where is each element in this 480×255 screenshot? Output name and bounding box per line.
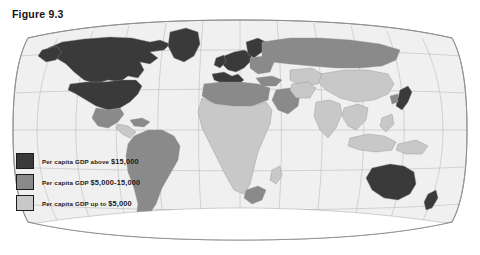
legend-swatch-high [16,153,34,169]
map-legend: Per capita GDP above $15,000 Per capita … [16,153,140,211]
legend-amount-middle: $5,000-15,000 [91,178,141,187]
legend-text-middle: Per capita GDP [42,179,91,186]
legend-swatch-low [16,195,34,211]
legend-swatch-middle [16,174,34,190]
legend-amount-high: $15,000 [111,157,139,166]
legend-item-low: Per capita GDP up to $5,000 [16,195,140,211]
legend-text-low: Per capita GDP up to [42,200,108,207]
legend-item-high: Per capita GDP above $15,000 [16,153,140,169]
legend-item-middle: Per capita GDP $5,000-15,000 [16,174,140,190]
legend-text-high: Per capita GDP above [42,158,111,165]
legend-label-low: Per capita GDP up to $5,000 [42,199,132,208]
legend-label-high: Per capita GDP above $15,000 [42,157,139,166]
legend-label-middle: Per capita GDP $5,000-15,000 [42,178,140,187]
legend-amount-low: $5,000 [108,199,132,208]
figure-container: Figure 9.3 [0,0,480,255]
